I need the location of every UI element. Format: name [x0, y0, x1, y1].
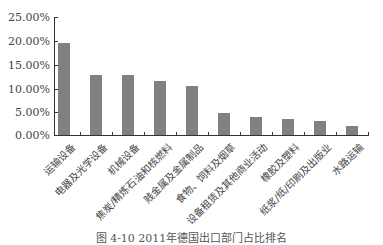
- bar: [58, 43, 70, 135]
- x-tick: [144, 132, 145, 135]
- bar: [218, 113, 230, 135]
- x-tick: [208, 132, 209, 135]
- bar: [186, 86, 198, 135]
- y-tick: [54, 41, 58, 42]
- bar: [346, 126, 358, 135]
- bar: [282, 119, 294, 135]
- x-tick: [304, 132, 305, 135]
- x-tick: [176, 132, 177, 135]
- bar: [154, 81, 166, 135]
- x-tick-label: 水路运输: [328, 139, 367, 178]
- bar: [314, 121, 326, 135]
- y-tick-label: 5.00%: [15, 106, 50, 119]
- x-tick: [80, 132, 81, 135]
- y-tick-label: 25.00%: [8, 11, 50, 24]
- x-tick: [336, 132, 337, 135]
- bar: [250, 117, 262, 135]
- x-axis: [54, 135, 369, 136]
- y-tick-label: 0.00%: [15, 129, 50, 142]
- bar: [90, 75, 102, 135]
- x-tick: [272, 132, 273, 135]
- bar: [122, 75, 134, 135]
- figure-caption: 图 4-10 2011年德国出口部门占比排名: [0, 229, 383, 245]
- y-tick-label: 20.00%: [8, 35, 50, 48]
- x-tick: [368, 132, 369, 135]
- x-tick: [240, 132, 241, 135]
- y-tick: [54, 17, 58, 18]
- y-tick-label: 10.00%: [8, 83, 50, 96]
- y-axis: [54, 17, 55, 135]
- x-tick: [112, 132, 113, 135]
- y-tick-label: 15.00%: [8, 59, 50, 72]
